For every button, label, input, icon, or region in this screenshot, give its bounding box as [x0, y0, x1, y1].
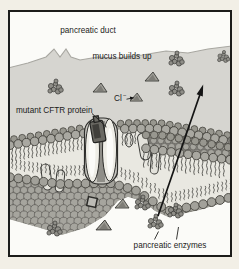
- cftr-protein: [85, 115, 118, 184]
- enzyme-globule: [54, 79, 58, 83]
- lipid-head: [216, 142, 224, 150]
- enzyme-globule: [226, 57, 230, 61]
- square-particle-icon: [87, 197, 98, 208]
- lipid-head: [199, 200, 208, 209]
- enzyme-globule: [180, 60, 185, 65]
- lipid-head: [64, 179, 73, 188]
- lipid-head: [150, 131, 158, 139]
- lipid-head: [129, 124, 138, 133]
- mucus-label: mucus builds up: [92, 52, 152, 61]
- lipid-head: [167, 133, 175, 141]
- lipid-head: [182, 203, 191, 212]
- enzyme-globule: [59, 88, 64, 93]
- membrane-vesicle: [125, 133, 133, 147]
- lipid-head: [56, 180, 65, 189]
- square-particle: [87, 197, 98, 208]
- lipid-head: [14, 174, 23, 183]
- enzyme-globule: [148, 224, 152, 228]
- enzyme-globule: [48, 89, 52, 93]
- lipid-head: [175, 134, 183, 142]
- lipid-head: [48, 179, 57, 188]
- enzyme-globule: [154, 214, 158, 218]
- lipid-head: [150, 145, 159, 154]
- enzyme-globule: [169, 61, 173, 65]
- lipid-head: [39, 136, 48, 145]
- lipid-head: [209, 153, 218, 162]
- cobblestone: [183, 144, 189, 150]
- enzyme-globule: [141, 195, 145, 199]
- lipid-head: [201, 152, 210, 161]
- lipid-head: [216, 196, 225, 205]
- enzyme-globule: [179, 212, 184, 217]
- enzyme-globule: [175, 81, 179, 85]
- lipid-head: [71, 130, 80, 139]
- enzyme-globule: [180, 90, 185, 95]
- chloride-superscript: −: [123, 92, 127, 98]
- lipid-head: [159, 132, 167, 140]
- lipid-head: [191, 137, 199, 145]
- lipid-head: [208, 140, 216, 148]
- enzyme-globule: [47, 231, 51, 235]
- enzyme-globule: [146, 204, 151, 209]
- lipid-head: [47, 134, 56, 143]
- enzyme-globule: [135, 205, 139, 209]
- lipid-head: [14, 140, 23, 149]
- enzyme-globule: [58, 230, 63, 235]
- enzyme-globule: [159, 223, 164, 228]
- enzyme-globule: [169, 91, 173, 95]
- figure-page: pancreatic duct mucus builds up Cl − mut…: [0, 0, 239, 269]
- lipid-head: [167, 148, 176, 157]
- enzyme-globule: [168, 213, 172, 217]
- lipid-head: [31, 176, 40, 185]
- lipid-head: [123, 184, 132, 193]
- lipid-head: [217, 154, 226, 163]
- lipid-head: [184, 150, 193, 159]
- lipid-head: [142, 131, 150, 139]
- enzyme-globule: [218, 58, 221, 61]
- enzymes-label: pancreatic enzymes: [134, 241, 207, 250]
- lipid-head: [30, 137, 39, 146]
- lipid-head: [22, 175, 31, 184]
- lipid-head: [121, 124, 130, 133]
- cftr-lobe-inner: [107, 128, 114, 176]
- lipid-head: [39, 177, 48, 186]
- pancreatic-duct-label: pancreatic duct: [60, 26, 116, 35]
- lipid-head: [22, 138, 31, 147]
- lipid-head: [207, 198, 216, 207]
- lipid-head: [226, 155, 235, 164]
- cystic-fibrosis-diagram: pancreatic duct mucus builds up Cl − mut…: [0, 0, 239, 269]
- lipid-head: [159, 146, 168, 155]
- lipid-head: [115, 181, 124, 190]
- lipid-head: [6, 173, 15, 182]
- enzyme-globule: [175, 51, 179, 55]
- enzyme-globule: [53, 221, 57, 225]
- lipid-head: [142, 144, 151, 153]
- lipid-head: [63, 132, 72, 141]
- lipid-head: [55, 133, 64, 142]
- lipid-head: [192, 151, 201, 160]
- enzyme-globule: [222, 50, 225, 53]
- lipid-head: [73, 179, 82, 188]
- enzyme-globule: [174, 203, 178, 207]
- lipid-head: [190, 202, 199, 211]
- lipid-head: [200, 139, 208, 147]
- cftr-label: mutant CFTR protein: [16, 106, 93, 115]
- lipid-head: [132, 186, 141, 195]
- chloride-label: Cl: [114, 94, 122, 103]
- lipid-head: [6, 141, 15, 150]
